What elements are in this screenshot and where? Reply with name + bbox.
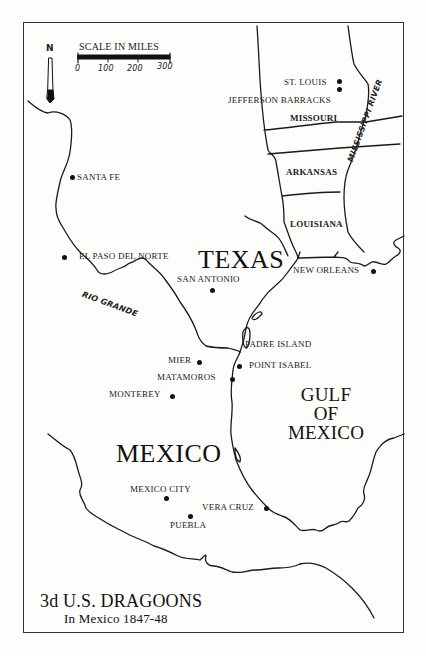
dot-el-paso bbox=[62, 255, 67, 260]
place-monterey: MONTEREY bbox=[109, 389, 161, 399]
dot-st-louis bbox=[337, 79, 342, 84]
place-mier: MIER bbox=[168, 355, 191, 365]
place-vera-cruz: VERA CRUZ bbox=[202, 502, 254, 512]
dot-jefferson-barracks bbox=[337, 87, 342, 92]
place-jefferson-barracks: JEFFERSON BARRACKS bbox=[228, 95, 331, 105]
map-subtitle: In Mexico 1847-48 bbox=[64, 611, 168, 627]
region-missouri: MISSOURI bbox=[290, 113, 337, 123]
dot-monterey bbox=[170, 394, 175, 399]
place-matamoros: MATAMOROS bbox=[157, 372, 216, 382]
map-lines bbox=[0, 0, 426, 656]
dot-new-orleans bbox=[371, 269, 376, 274]
region-mexico: MEXICO bbox=[116, 439, 222, 469]
place-point-isabel: POINT ISABEL bbox=[249, 360, 312, 370]
dot-mier bbox=[197, 360, 202, 365]
map-title: 3d U.S. DRAGOONS bbox=[40, 591, 202, 612]
dot-vera-cruz bbox=[264, 506, 269, 511]
dot-san-antonio bbox=[210, 288, 215, 293]
region-louisiana: LOUISIANA bbox=[290, 219, 343, 229]
scale-tick-200: 200 bbox=[127, 64, 143, 73]
dot-point-isabel bbox=[237, 364, 242, 369]
place-new-orleans: NEW ORLEANS bbox=[293, 265, 359, 275]
region-texas: TEXAS bbox=[198, 245, 284, 275]
region-gulf-of-mexico: GULF OF MEXICO bbox=[286, 385, 366, 442]
place-st-louis: ST. LOUIS bbox=[284, 77, 327, 87]
place-padre-island: PADRE ISLAND bbox=[245, 339, 311, 349]
north-arrow-icon bbox=[47, 58, 54, 103]
place-mexico-city: MEXICO CITY bbox=[130, 484, 191, 494]
dot-matamoros bbox=[230, 377, 235, 382]
scale-tick-300: 300 bbox=[157, 62, 173, 71]
dot-mexico-city bbox=[164, 496, 169, 501]
north-label: N bbox=[46, 43, 54, 53]
place-el-paso: EL PASO DEL NORTE bbox=[79, 251, 169, 261]
dot-santa-fe bbox=[70, 175, 75, 180]
place-puebla: PUEBLA bbox=[170, 520, 206, 530]
region-arkansas: ARKANSAS bbox=[286, 167, 337, 177]
scale-tick-0: 0 bbox=[75, 64, 80, 73]
scale-tick-100: 100 bbox=[98, 64, 114, 73]
louisiana-coast bbox=[298, 236, 404, 266]
scale-title: SCALE IN MILES bbox=[79, 41, 159, 52]
yucatan-coast bbox=[300, 563, 374, 618]
place-santa-fe: SANTA FE bbox=[77, 172, 120, 182]
place-san-antonio: SAN ANTONIO bbox=[177, 274, 240, 284]
dot-puebla bbox=[188, 514, 193, 519]
